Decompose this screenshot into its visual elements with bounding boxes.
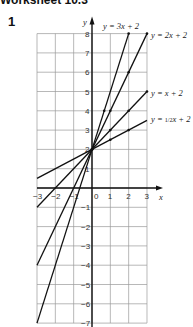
y-tick-label: −5 xyxy=(81,281,91,290)
label-y-2x-2: y = 2x + 2 xyxy=(150,30,188,40)
y-tick-label: 4 xyxy=(85,107,90,116)
y-tick-label: −2 xyxy=(81,223,91,232)
y-tick-label: 6 xyxy=(85,68,90,77)
data-point xyxy=(127,32,130,35)
x-tick-label: 3 xyxy=(144,192,149,201)
label-y-half-x-2: y = 1/2x + 2 xyxy=(150,114,191,124)
x-axis-label: x xyxy=(158,192,163,202)
x-axis-arrow-icon xyxy=(156,186,163,191)
x-tick-label: −3 xyxy=(33,192,43,201)
data-point xyxy=(127,129,130,132)
data-point xyxy=(109,110,112,113)
label-y-x-2: y = x + 2 xyxy=(150,88,184,98)
y-tick-label: −1 xyxy=(81,203,91,212)
y-tick-label: −4 xyxy=(81,261,91,270)
tick-labels: xy−3−2−10123−7−6−5−4−3−2−112345678 xyxy=(33,17,163,327)
x-tick-label: 1 xyxy=(108,192,113,201)
label-y-3x-2: y = 3x + 2 xyxy=(102,21,140,31)
y-tick-label: 3 xyxy=(85,126,90,135)
y-tick-label: 7 xyxy=(85,49,90,58)
linear-graphs-chart: xy−3−2−10123−7−6−5−4−3−2−112345678 y = 3… xyxy=(0,0,193,327)
y-tick-label: −7 xyxy=(81,319,91,327)
x-tick-label: 2 xyxy=(126,192,131,201)
data-point xyxy=(146,90,149,93)
y-tick-label: 8 xyxy=(85,30,90,39)
data-point xyxy=(109,129,112,132)
y-tick-label: −3 xyxy=(81,242,91,251)
x-tick-label: −2 xyxy=(51,192,61,201)
data-point xyxy=(91,148,94,151)
data-point xyxy=(127,110,130,113)
y-axis-label: y xyxy=(82,17,87,27)
axes xyxy=(37,17,163,327)
x-tick-label: 0 xyxy=(94,192,99,201)
y-axis-arrow-icon xyxy=(90,17,95,25)
y-tick-label: −6 xyxy=(81,300,91,309)
data-point xyxy=(127,71,130,74)
data-point xyxy=(103,110,106,113)
data-point xyxy=(109,138,112,141)
data-point xyxy=(146,32,149,35)
y-tick-label: 5 xyxy=(85,88,90,97)
